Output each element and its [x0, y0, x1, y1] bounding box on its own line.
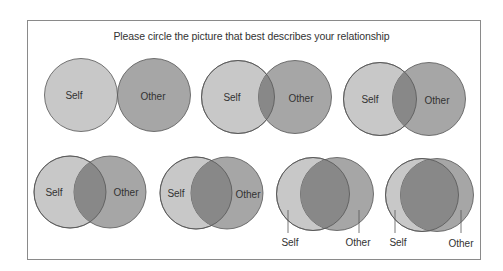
other-label: Other	[113, 187, 139, 198]
self-label: Self	[281, 237, 298, 248]
self-label: Self	[361, 94, 378, 105]
venn-option-1[interactable]: Self Other	[45, 59, 191, 132]
other-label: Other	[448, 238, 474, 249]
other-label: Other	[424, 95, 450, 106]
venn-options: Self Other Self Other Self Other Self Ot…	[0, 0, 503, 271]
other-label: Other	[140, 91, 166, 102]
venn-option-6[interactable]: Self Other	[277, 158, 374, 249]
venn-option-7[interactable]: Self Other	[386, 159, 475, 250]
venn-option-3[interactable]: Self Other	[344, 63, 466, 136]
venn-option-4[interactable]: Self Other	[34, 156, 146, 228]
other-label: Other	[288, 93, 314, 104]
other-label: Other	[235, 189, 261, 200]
venn-option-5[interactable]: Self Other	[160, 157, 263, 229]
self-label: Self	[45, 187, 62, 198]
self-label: Self	[167, 188, 184, 199]
venn-option-2[interactable]: Self Other	[202, 61, 332, 134]
other-label: Other	[345, 237, 371, 248]
self-label: Self	[223, 92, 240, 103]
self-label: Self	[389, 237, 406, 248]
self-label: Self	[65, 90, 82, 101]
